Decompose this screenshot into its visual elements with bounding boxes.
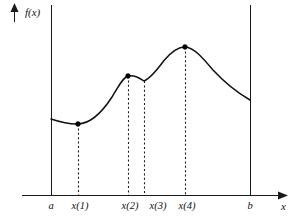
function-plot-figure: f(x) x a x(1) x(2) x(3) x(4) b [0, 0, 295, 224]
marker-local-maximum-1 [126, 74, 131, 79]
y-axis-label: f(x) [25, 7, 40, 18]
tick-label-x3-superscript: (3) [154, 200, 166, 211]
tick-label-x2: x(2) [122, 201, 139, 212]
tick-label-x2-superscript: (2) [126, 200, 138, 211]
y-axis-arrow-icon [11, 3, 19, 12]
x-axis-label: x [281, 201, 286, 212]
tick-label-x1-superscript: (1) [76, 200, 88, 211]
tick-label-x3: x(3) [150, 201, 167, 212]
tick-label-a: a [48, 201, 53, 212]
axis-ticks [52, 189, 251, 195]
tick-label-x1: x(1) [72, 201, 89, 212]
tick-label-b: b [247, 201, 252, 212]
function-curve [51, 47, 250, 124]
drop-lines [79, 47, 186, 195]
x-axis-arrow-icon [278, 192, 288, 200]
x-axis [22, 192, 288, 200]
tick-label-a-text: a [48, 200, 53, 211]
marker-local-minimum-1 [76, 122, 81, 127]
marker-global-maximum [183, 45, 188, 50]
stationary-point-markers [76, 45, 188, 127]
tick-label-x4: x(4) [179, 201, 196, 212]
tick-label-x4-superscript: (4) [183, 200, 195, 211]
plot-canvas [0, 0, 295, 224]
y-axis [11, 3, 19, 22]
tick-label-b-text: b [247, 200, 252, 211]
